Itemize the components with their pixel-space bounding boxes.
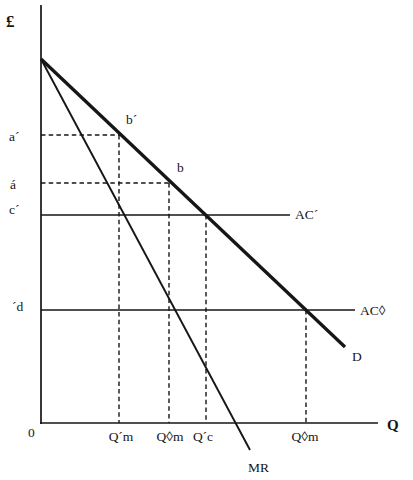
ac-prime-label: AC´ — [295, 207, 318, 222]
quantity-label-q-m-diamond: Q◊m — [157, 429, 184, 444]
point-label-b-prime: b´ — [126, 112, 137, 127]
price-label-d-prime: ´d — [12, 299, 23, 314]
price-label-a-prime: a´ — [9, 129, 20, 144]
marginal-revenue-curve — [41, 59, 250, 450]
diagram-canvas: £ Q 0 a´ á c´ ´d b´ b D MR AC´ AC◊ Q´m Q… — [0, 0, 413, 480]
origin-label: 0 — [28, 425, 35, 440]
quantity-label-q-c-prime: Q´c — [193, 429, 213, 444]
quantity-label-q-m-prime: Q´m — [109, 429, 134, 444]
demand-curve — [41, 59, 345, 347]
x-axis-title: Q — [387, 417, 399, 433]
mr-curve-label: MR — [248, 460, 269, 475]
demand-curve-label: D — [352, 349, 362, 364]
y-axis-title: £ — [6, 12, 15, 31]
ac-diamond-label: AC◊ — [360, 303, 386, 318]
point-label-b: b — [177, 160, 184, 175]
price-label-a-acute: á — [10, 177, 16, 192]
price-label-c-prime: c´ — [9, 202, 20, 217]
economics-monopoly-diagram: £ Q 0 a´ á c´ ´d b´ b D MR AC´ AC◊ Q´m Q… — [0, 0, 413, 480]
quantity-label-q-m-diamond2: Q◊m — [292, 429, 319, 444]
